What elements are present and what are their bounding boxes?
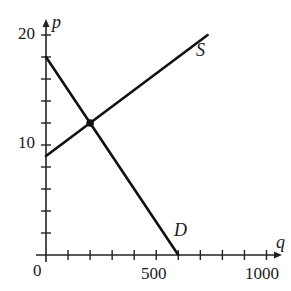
x-axis-label: q (276, 232, 285, 252)
x-axis-arrow-icon (274, 252, 282, 259)
equilibrium-point (86, 119, 94, 127)
demand-curve (46, 57, 178, 255)
y-tick-label-10: 10 (18, 133, 35, 152)
y-axis-arrow-icon (43, 19, 50, 27)
x-tick-label-500: 500 (141, 264, 167, 283)
demand-label: D (173, 220, 187, 240)
y-axis-label: p (50, 12, 61, 32)
x-tick-label-1000: 1000 (245, 264, 279, 283)
supply-label: S (196, 40, 205, 60)
supply-demand-chart: 0 500 1000 10 20 q p S D (0, 0, 291, 291)
origin-label: 0 (33, 261, 42, 280)
y-tick-label-20: 20 (18, 24, 35, 43)
